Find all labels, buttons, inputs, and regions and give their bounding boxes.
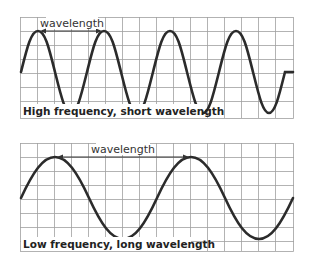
high-frequency-panel: wavelength High frequency, short wavelen… [20,17,294,119]
wave-diagram: wavelength High frequency, short wavelen… [0,0,312,267]
wavelength-label: wavelength [91,143,155,156]
panel-caption: Low frequency, long wavelength [23,238,215,250]
wavelength-label: wavelength [40,17,104,30]
panel-caption: High frequency, short wavelength [23,105,224,117]
low-frequency-panel: wavelength Low frequency, long wavelengt… [20,143,294,252]
